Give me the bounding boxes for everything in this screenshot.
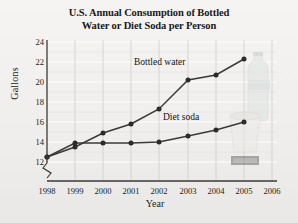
series-label-diet-soda: Diet soda bbox=[163, 112, 199, 122]
x-tick-2006: 2006 bbox=[255, 186, 289, 196]
y-axis-break-zigzag bbox=[43, 163, 51, 178]
series-label-bottled-water: Bottled water bbox=[134, 57, 185, 67]
chart-figure: U.S. Annual Consumption of Bottled Water… bbox=[0, 0, 298, 223]
x-axis-label: Year bbox=[100, 198, 210, 209]
water-bottle-decoration bbox=[230, 52, 270, 165]
